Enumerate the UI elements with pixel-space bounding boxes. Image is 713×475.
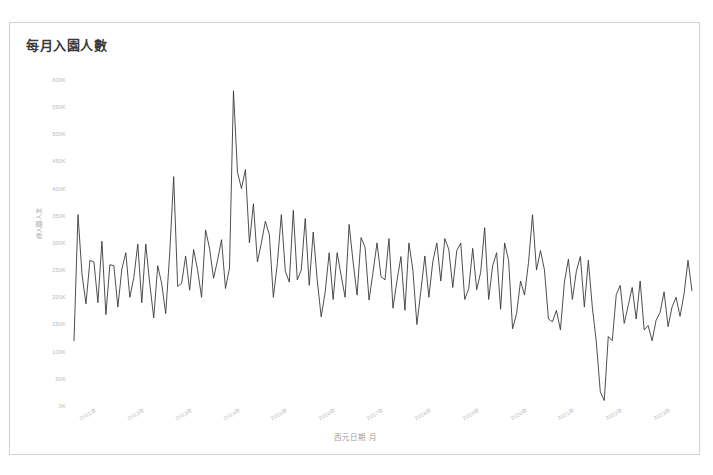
series-line-monthly-admissions xyxy=(74,91,692,401)
chart-screenshot-root: 每月入園人數 總入園人次 600K550K500K450K400K350K300… xyxy=(0,0,713,475)
x-axis-title: 西元日期 月 xyxy=(10,431,701,442)
chart-panel: 每月入園人數 總入園人次 600K550K500K450K400K350K300… xyxy=(9,22,700,455)
plot-area: 600K550K500K450K400K350K300K250K200K150K… xyxy=(10,23,701,456)
line-chart-svg xyxy=(10,23,701,456)
